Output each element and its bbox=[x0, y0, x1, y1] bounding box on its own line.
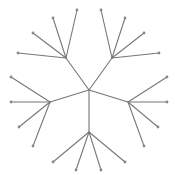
edge-hub-upper-left-to-ul-4 bbox=[18, 53, 66, 58]
leaf-node-l-4 bbox=[32, 145, 35, 148]
edge-hub-upper-right-to-ur-1 bbox=[101, 10, 112, 58]
leaf-node-ur-4 bbox=[158, 52, 161, 55]
edge-hub-left-to-l-1 bbox=[11, 77, 50, 102]
edge-hub-upper-left-to-ul-2 bbox=[53, 18, 66, 58]
radial-tree-diagram bbox=[0, 0, 175, 175]
leaf-node-ul-2 bbox=[52, 17, 55, 20]
edge-root-to-hub-upper-left bbox=[66, 58, 89, 90]
leaf-node-r-3 bbox=[157, 126, 160, 129]
leaf-node-ur-2 bbox=[124, 17, 127, 20]
edge-hub-upper-left-to-ul-3 bbox=[33, 33, 66, 58]
leaf-node-r-1 bbox=[166, 76, 169, 79]
edge-hub-upper-right-to-ur-3 bbox=[112, 33, 144, 58]
leaf-node-l-1 bbox=[10, 76, 13, 79]
edge-root-to-hub-right bbox=[89, 90, 128, 102]
leaf-node-b-1 bbox=[52, 161, 55, 164]
leaf-node-ul-4 bbox=[17, 52, 20, 55]
leaf-node-r-2 bbox=[166, 101, 169, 104]
edge-root-to-hub-upper-right bbox=[89, 58, 112, 90]
leaf-node-r-4 bbox=[143, 145, 146, 148]
edge-hub-upper-left-to-ul-1 bbox=[66, 10, 77, 58]
leaf-node-l-3 bbox=[18, 126, 21, 129]
leaf-node-b-3 bbox=[100, 169, 103, 172]
leaf-node-ul-3 bbox=[32, 32, 35, 35]
edge-hub-upper-right-to-ur-4 bbox=[112, 53, 159, 58]
edge-hub-right-to-r-1 bbox=[128, 77, 167, 102]
leaf-node-l-2 bbox=[10, 101, 13, 104]
edge-hub-bottom-to-b-4 bbox=[89, 132, 125, 162]
edge-root-to-hub-left bbox=[50, 90, 89, 102]
leaf-node-ur-1 bbox=[100, 9, 103, 12]
leaf-node-b-4 bbox=[124, 161, 127, 164]
leaf-node-b-2 bbox=[75, 169, 78, 172]
leaf-node-ur-3 bbox=[143, 32, 146, 35]
edge-hub-upper-right-to-ur-2 bbox=[112, 18, 125, 58]
leaf-node-ul-1 bbox=[76, 9, 79, 12]
